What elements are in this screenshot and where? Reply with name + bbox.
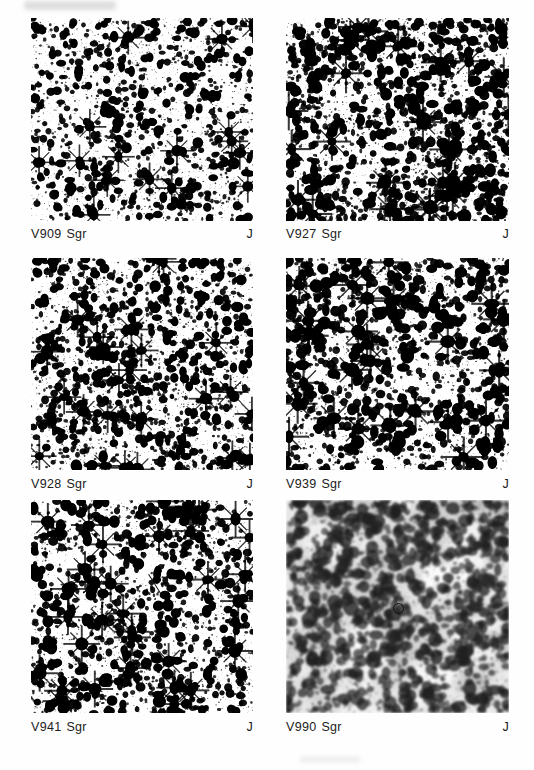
star-designation: V928Sgr [31,476,87,493]
star-constellation: Sgr [66,720,86,734]
panel-caption: V941SgrJ [31,719,253,736]
star-variable-id: V927 [286,227,316,241]
star-designation: V927Sgr [286,226,342,243]
star-variable-id: V939 [286,477,316,491]
panel-v928-sgr: V928SgrJ [31,258,253,493]
star-field-canvas [286,18,509,221]
star-designation: V941Sgr [31,719,87,736]
plate-band-label: J [246,226,253,243]
plate-band-label: J [502,226,509,243]
sky-image-v927 [286,18,509,221]
panel-v941-sgr: V941SgrJ [31,500,253,736]
panel-caption: V927SgrJ [286,226,509,243]
panel-v927-sgr: V927SgrJ [286,18,509,243]
panel-v909-sgr: V909SgrJ [31,18,253,243]
star-constellation: Sgr [66,477,86,491]
panel-caption: V990SgrJ [286,719,509,736]
star-constellation: Sgr [321,227,341,241]
star-field-canvas [31,258,253,470]
scan-artifact-bottom [300,757,360,762]
panel-caption: V928SgrJ [31,476,253,493]
star-constellation: Sgr [66,227,86,241]
star-field-canvas [31,500,253,713]
variable-star-circle-marker [393,603,404,614]
star-variable-id: V941 [31,720,61,734]
star-constellation: Sgr [321,477,341,491]
finding-chart-plate: V909SgrJV927SgrJV928SgrJV939SgrJV941SgrJ… [0,0,534,770]
star-field-canvas [31,18,253,221]
panel-caption: V909SgrJ [31,226,253,243]
star-designation: V990Sgr [286,719,342,736]
panel-v990-sgr: V990SgrJ [286,500,509,736]
star-field-canvas [286,258,509,470]
star-designation: V909Sgr [31,226,87,243]
star-variable-id: V990 [286,720,316,734]
plate-band-label: J [246,719,253,736]
sky-image-v939 [286,258,509,470]
panel-caption: V939SgrJ [286,476,509,493]
star-constellation: Sgr [321,720,341,734]
plate-band-label: J [246,476,253,493]
star-variable-id: V928 [31,477,61,491]
star-designation: V939Sgr [286,476,342,493]
sky-image-v928 [31,258,253,470]
plate-band-label: J [502,719,509,736]
plate-band-label: J [502,476,509,493]
star-variable-id: V909 [31,227,61,241]
panel-v939-sgr: V939SgrJ [286,258,509,493]
sky-image-v941 [31,500,253,713]
sky-image-v909 [31,18,253,221]
scan-artifact-top [24,1,116,10]
